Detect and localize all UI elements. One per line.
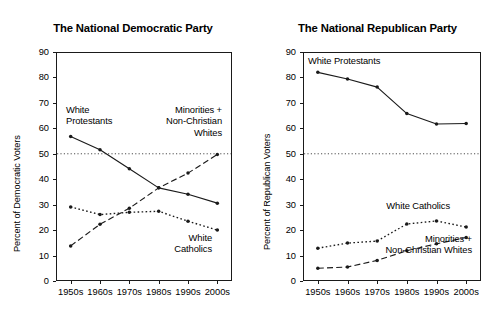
series-data-point bbox=[186, 171, 190, 175]
series-annotation: Minorities +Non-ChristianWhites bbox=[0, 104, 222, 138]
series-data-point bbox=[316, 71, 320, 75]
series-line bbox=[318, 72, 466, 124]
series-data-point bbox=[464, 122, 468, 126]
series-data-point bbox=[98, 223, 102, 227]
series-data-point bbox=[186, 219, 190, 223]
series-annotation: WhiteCatholics bbox=[0, 232, 212, 255]
x-tick-mark bbox=[348, 281, 349, 284]
series-data-point bbox=[157, 186, 161, 190]
x-tick-label: 2000s bbox=[196, 287, 238, 297]
y-tick-mark bbox=[300, 256, 303, 257]
series-annotation-line: Catholics bbox=[0, 243, 212, 254]
y-tick-mark bbox=[300, 52, 303, 53]
series-annotation-line: White Catholics bbox=[250, 200, 450, 211]
series-annotation-line: Whites bbox=[0, 127, 222, 138]
y-tick-label: 60 bbox=[269, 123, 296, 133]
x-tick-mark bbox=[188, 281, 189, 284]
y-tick-mark bbox=[300, 179, 303, 180]
x-tick-label: 2000s bbox=[445, 287, 487, 297]
series-data-point bbox=[316, 267, 320, 271]
y-tick-mark bbox=[300, 281, 303, 282]
y-tick-label: 70 bbox=[269, 98, 296, 108]
chart-panel-republican: The National Republican Party Percent of… bbox=[250, 0, 501, 320]
y-tick-label: 40 bbox=[22, 174, 49, 184]
series-annotation-line: Minorities + bbox=[250, 233, 472, 244]
series-data-point bbox=[128, 206, 132, 210]
series-data-point bbox=[375, 259, 379, 263]
series-data-point bbox=[69, 205, 73, 209]
series-data-point bbox=[128, 211, 132, 215]
y-tick-mark bbox=[300, 128, 303, 129]
x-tick-mark bbox=[437, 281, 438, 284]
y-tick-label: 0 bbox=[269, 276, 296, 286]
y-tick-label: 90 bbox=[22, 47, 49, 57]
series-data-point bbox=[346, 265, 350, 269]
y-tick-label: 80 bbox=[269, 72, 296, 82]
y-tick-label: 80 bbox=[22, 72, 49, 82]
y-tick-label: 50 bbox=[22, 149, 49, 159]
y-tick-mark bbox=[300, 154, 303, 155]
chart-panel-democratic: The National Democratic Party Percent of… bbox=[0, 0, 250, 320]
y-tick-mark bbox=[53, 179, 56, 180]
x-tick-mark bbox=[100, 281, 101, 284]
x-tick-mark bbox=[159, 281, 160, 284]
y-tick-label: 90 bbox=[269, 47, 296, 57]
x-tick-mark bbox=[217, 281, 218, 284]
series-data-point bbox=[405, 222, 409, 226]
x-tick-mark bbox=[377, 281, 378, 284]
series-data-point bbox=[216, 228, 220, 232]
series-data-point bbox=[346, 77, 350, 81]
series-line bbox=[71, 207, 218, 230]
y-tick-mark bbox=[300, 230, 303, 231]
y-tick-mark bbox=[53, 52, 56, 53]
series-data-point bbox=[98, 148, 102, 152]
y-tick-label: 30 bbox=[22, 200, 49, 210]
series-annotation-line: Non-Christian Whites bbox=[250, 244, 472, 255]
x-tick-mark bbox=[129, 281, 130, 284]
series-data-point bbox=[98, 213, 102, 217]
y-tick-mark bbox=[53, 281, 56, 282]
series-data-point bbox=[216, 201, 220, 205]
series-data-point bbox=[375, 85, 379, 89]
y-tick-mark bbox=[53, 154, 56, 155]
series-data-point bbox=[157, 210, 161, 214]
y-tick-label: 40 bbox=[269, 174, 296, 184]
series-annotation: Minorities +Non-Christian Whites bbox=[250, 233, 472, 256]
y-tick-mark bbox=[300, 77, 303, 78]
series-annotation-line: Non-Christian bbox=[0, 115, 222, 126]
series-data-point bbox=[405, 112, 409, 116]
y-tick-mark bbox=[53, 256, 56, 257]
y-tick-label: 50 bbox=[269, 149, 296, 159]
series-annotation-line: White bbox=[0, 232, 212, 243]
y-tick-mark bbox=[300, 103, 303, 104]
series-annotation: White Catholics bbox=[250, 200, 450, 211]
series-data-point bbox=[464, 225, 468, 229]
series-annotation-line: White Protestants bbox=[308, 55, 380, 66]
series-line bbox=[71, 136, 218, 203]
x-tick-mark bbox=[71, 281, 72, 284]
x-tick-mark bbox=[466, 281, 467, 284]
y-tick-label: 0 bbox=[22, 276, 49, 286]
y-tick-mark bbox=[53, 77, 56, 78]
x-tick-mark bbox=[318, 281, 319, 284]
series-annotation: White Protestants bbox=[308, 55, 380, 66]
series-data-point bbox=[216, 153, 220, 157]
y-tick-mark bbox=[53, 205, 56, 206]
figure-root: The National Democratic Party Percent of… bbox=[0, 0, 501, 320]
series-data-point bbox=[435, 219, 439, 223]
x-tick-mark bbox=[407, 281, 408, 284]
series-data-point bbox=[128, 167, 132, 171]
series-data-point bbox=[435, 122, 439, 126]
series-annotation-line: Minorities + bbox=[0, 104, 222, 115]
series-data-point bbox=[186, 192, 190, 196]
y-tick-mark bbox=[53, 230, 56, 231]
